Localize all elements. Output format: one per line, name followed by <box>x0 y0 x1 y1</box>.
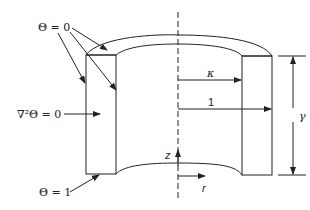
gamma-label: γ <box>299 111 306 122</box>
r-axis-label: r <box>202 183 206 194</box>
one-label: 1 <box>208 97 214 108</box>
z-axis-label: z <box>165 150 171 161</box>
diagram-canvas: Θ = 0 ∇²Θ = 0 Θ = 1 κ 1 γ z r <box>0 0 310 210</box>
theta-one-arrow <box>70 175 99 192</box>
theta-zero-arrow-top <box>72 28 107 50</box>
laplace-equation-label: ∇²Θ = 0 <box>17 109 61 120</box>
theta-zero-arrow-outer <box>58 33 85 83</box>
bottom-inner-curve <box>116 163 242 175</box>
kappa-label: κ <box>207 68 214 79</box>
theta-one-label: Θ = 1 <box>39 187 71 198</box>
theta-zero-label: Θ = 0 <box>38 22 70 33</box>
top-inner-curve <box>116 44 242 56</box>
top-outer-curve <box>86 35 272 56</box>
right-wall <box>242 56 272 175</box>
